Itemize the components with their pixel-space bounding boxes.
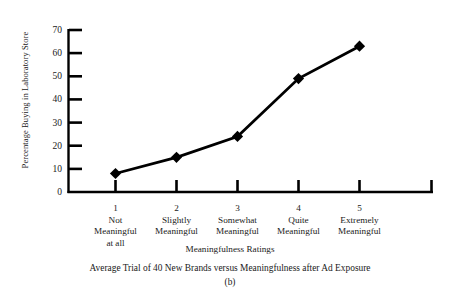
y-tick-label-30: 30 — [36, 118, 62, 128]
x-category-5-line2: Meaningful — [318, 226, 402, 238]
y-tick-label-70: 70 — [36, 25, 62, 35]
x-category-5-line1: Extremely — [318, 215, 402, 227]
x-category-5-number: 5 — [318, 203, 402, 215]
x-axis-title: Meaningfulness Ratings — [0, 244, 460, 255]
x-category-5: 5 Extremely Meaningful — [318, 203, 402, 238]
y-tick-label-50: 50 — [36, 71, 62, 81]
data-point-marker — [171, 152, 182, 163]
data-point-marker — [110, 168, 121, 179]
y-tick-label-0: 0 — [36, 187, 62, 197]
y-tick-label-10: 10 — [36, 164, 62, 174]
data-point-marker — [354, 41, 365, 52]
data-point-markers — [110, 41, 365, 179]
y-tick-label-20: 20 — [36, 141, 62, 151]
plot-area — [0, 0, 460, 301]
chart-figure: Percentage Buying in Laboratory Store — [0, 0, 460, 301]
y-tick-label-40: 40 — [36, 94, 62, 104]
figure-caption: Average Trial of 40 New Brands versus Me… — [0, 262, 460, 274]
data-series-line — [116, 46, 360, 173]
figure-subcaption: (b) — [0, 276, 460, 288]
y-axis-ticks — [69, 30, 82, 169]
x-axis-ticks — [116, 180, 432, 191]
y-tick-label-60: 60 — [36, 48, 62, 58]
